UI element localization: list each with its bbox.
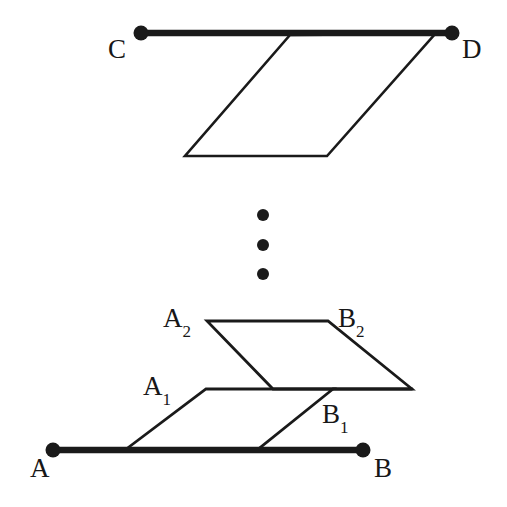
label-point-a1-subscript: 1 xyxy=(163,390,172,409)
diagram-svg xyxy=(0,0,507,507)
label-point-d-text: D xyxy=(462,34,482,64)
point-b-dot xyxy=(356,443,371,458)
sheet-a2b2-group xyxy=(207,321,412,389)
label-point-a1-base: A xyxy=(143,371,163,401)
ellipsis-dot-3 xyxy=(257,268,269,280)
label-point-b2-base: B xyxy=(338,303,356,333)
label-point-b: B xyxy=(374,455,392,482)
label-point-a: A xyxy=(30,455,50,482)
label-point-b1: B1 xyxy=(322,401,349,432)
point-d-dot xyxy=(445,26,460,41)
label-point-a2: A2 xyxy=(163,305,191,336)
point-c-dot xyxy=(134,26,149,41)
label-point-d: D xyxy=(462,36,482,63)
geometry-figure-canvas: C D A2 B2 A1 B1 A B xyxy=(0,0,507,507)
ellipsis-dot-1 xyxy=(257,209,269,221)
label-point-b-text: B xyxy=(374,453,392,483)
label-point-b2-subscript: 2 xyxy=(356,322,365,341)
segment-cd-group xyxy=(134,26,460,41)
label-point-b2: B2 xyxy=(338,305,365,336)
label-point-b1-subscript: 1 xyxy=(340,418,349,437)
segment-ab-group xyxy=(46,443,371,458)
label-point-c-text: C xyxy=(108,34,126,64)
vertical-ellipsis-group xyxy=(257,209,269,280)
label-point-a1: A1 xyxy=(143,373,171,404)
label-point-c: C xyxy=(108,36,126,63)
label-point-a-text: A xyxy=(30,453,50,483)
top-sheet-group xyxy=(185,34,435,156)
sheet-a2b2-outline xyxy=(207,321,412,389)
label-point-a2-base: A xyxy=(163,303,183,333)
label-point-a2-subscript: 2 xyxy=(183,322,192,341)
label-point-b1-base: B xyxy=(322,399,340,429)
ellipsis-dot-2 xyxy=(257,239,269,251)
top-sheet-outline xyxy=(185,34,435,156)
